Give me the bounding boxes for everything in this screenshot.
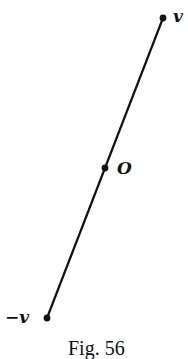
figure-caption: Fig. 56 <box>68 338 125 358</box>
point-v-dot <box>160 15 167 22</box>
point-neg-v-dot <box>44 315 51 322</box>
label-neg-v: −v <box>5 309 29 326</box>
point-origin-dot <box>102 165 109 172</box>
label-v: v <box>173 8 183 25</box>
label-origin: O <box>117 160 132 177</box>
